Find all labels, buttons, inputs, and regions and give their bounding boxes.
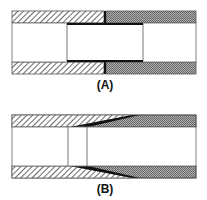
top-wall-right — [106, 11, 196, 23]
figure-b: (B) — [12, 115, 196, 196]
inner-sleeve — [67, 24, 143, 61]
figure-a: (A) — [12, 11, 196, 92]
bore — [12, 127, 196, 166]
butt-joint-top — [104, 11, 106, 24]
bottom-wall-right — [106, 62, 196, 74]
butt-joint-bottom — [104, 61, 106, 74]
figure-b-label: (B) — [97, 182, 114, 196]
figure-a-label: (A) — [97, 78, 114, 92]
pipe-joint-diagram: (A) (B) — [0, 0, 207, 200]
bottom-wall-left — [12, 62, 104, 74]
top-wall-left — [12, 11, 104, 23]
